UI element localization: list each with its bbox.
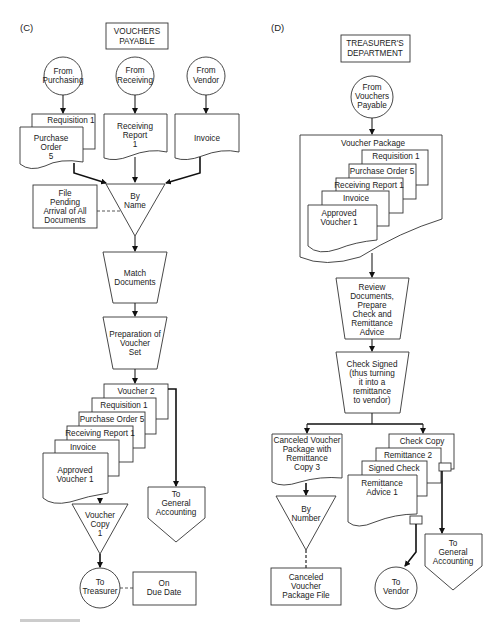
preparation-voucher-set-process: Preparation of Voucher Set [103,317,167,369]
svg-text:Package File: Package File [282,591,330,600]
svg-text:Pending: Pending [50,198,80,207]
approved-voucher-document: Approved Voucher 1 [43,453,108,503]
svg-text:Preparation of: Preparation of [109,330,161,339]
check-signed-process: Check Signed (thus turning it into a rem… [336,352,409,413]
svg-text:Receiving: Receiving [117,122,153,131]
svg-text:Remittance: Remittance [351,319,393,328]
svg-text:Remittance 2: Remittance 2 [384,451,433,460]
svg-text:Approved: Approved [321,209,356,218]
svg-text:Invoice: Invoice [343,194,369,203]
svg-text:Voucher: Voucher [291,582,321,591]
svg-text:Purchase Order 5: Purchase Order 5 [80,415,145,424]
svg-text:Canceled Voucher: Canceled Voucher [274,436,341,445]
to-general-accounting-offpage: To General Accounting [425,534,482,590]
svg-text:5: 5 [49,152,54,161]
svg-text:From: From [196,66,215,75]
svg-text:To: To [449,539,458,548]
svg-text:Accounting: Accounting [433,557,474,566]
svg-text:General: General [438,548,467,557]
svg-text:Voucher 1: Voucher 1 [57,475,94,484]
svg-text:Documents: Documents [44,216,85,225]
vouchers-payable-header: VOUCHERS PAYABLE [106,23,168,49]
svg-text:Copy: Copy [90,520,110,529]
svg-text:Arrival of All: Arrival of All [43,207,86,216]
review-documents-process: Review Documents, Prepare Check and Remi… [336,278,409,339]
match-documents-process: Match Documents [103,252,167,303]
svg-text:Copy 3: Copy 3 [294,463,320,472]
to-vendor-connector: To Vendor [375,567,417,609]
svg-text:Voucher 1: Voucher 1 [321,218,358,227]
svg-text:Vendor: Vendor [193,76,219,85]
check-set-stack: Check Copy Remittance 2 Signed Check Rem… [348,434,454,526]
canceled-voucher-package-file: Canceled Voucher Package File [271,568,341,605]
svg-text:Check Signed: Check Signed [347,360,398,369]
voucher-copy-file: Voucher Copy 1 [72,504,128,554]
svg-text:Check and: Check and [352,310,392,319]
svg-text:1: 1 [98,529,103,538]
file-pending-note: File Pending Arrival of All Documents [33,185,97,228]
svg-text:Advice: Advice [360,328,385,337]
by-number-file: By Number [276,496,336,550]
svg-text:Purchase Order 5: Purchase Order 5 [350,167,415,176]
svg-text:1: 1 [133,140,138,149]
svg-text:TREASURER'S: TREASURER'S [346,39,404,48]
svg-text:Accounting: Accounting [156,508,197,517]
canceled-voucher-package-document: Canceled Voucher Package with Remittance… [272,434,342,485]
svg-text:By: By [130,192,140,201]
svg-text:Canceled: Canceled [289,573,324,582]
svg-text:Receiving Report 1: Receiving Report 1 [334,181,404,190]
svg-text:Name: Name [124,201,146,210]
flowchart-canvas: (C) VOUCHERS PAYABLE From Purchasing Fro… [0,0,500,624]
svg-text:Purchasing: Purchasing [43,76,84,85]
svg-text:Remittance: Remittance [361,479,403,488]
svg-text:Receiving Report 1: Receiving Report 1 [65,429,135,438]
svg-text:Documents,: Documents, [350,292,394,301]
svg-text:Requisition 1: Requisition 1 [372,152,420,161]
svg-text:Advice 1: Advice 1 [366,488,398,497]
svg-text:File: File [58,189,72,198]
svg-text:Treasurer: Treasurer [82,587,117,596]
svg-text:VOUCHERS: VOUCHERS [114,27,161,36]
svg-text:Prepare: Prepare [357,301,387,310]
remittance-advice-document: Remittance Advice 1 [348,475,417,526]
svg-text:Documents: Documents [114,278,155,287]
svg-text:Voucher: Voucher [120,339,150,348]
svg-text:Check Copy: Check Copy [400,437,446,446]
svg-text:By: By [301,505,311,514]
svg-text:From: From [362,83,381,92]
purchase-order-document: Purchase Order 5 [20,127,83,169]
svg-text:(thus turning: (thus turning [349,369,395,378]
svg-text:From: From [125,66,144,75]
to-treasurer-connector: To Treasurer [80,568,120,608]
voucher-set-stack: Voucher 2 Requisition 1 Purchase Order 5… [43,384,168,503]
voucher-package-document: Voucher Package Requisition 1 Purchase O… [300,135,442,263]
svg-text:it into a: it into a [359,378,386,387]
panel-d: (D) TREASURER'S DEPARTMENT From Vouchers… [271,22,482,609]
panel-c-label: (C) [20,22,33,33]
svg-text:Package with: Package with [283,445,332,454]
svg-text:Invoice: Invoice [194,134,220,143]
svg-text:Voucher 2: Voucher 2 [118,387,155,396]
svg-text:Report: Report [123,131,148,140]
svg-text:Signed Check: Signed Check [369,464,421,473]
panel-c: (C) VOUCHERS PAYABLE From Purchasing Fro… [20,22,239,608]
from-receiving-connector: From Receiving [116,57,154,95]
svg-text:Requisition 1: Requisition 1 [100,401,148,410]
svg-text:Voucher Package: Voucher Package [341,139,406,148]
svg-text:Approved: Approved [57,466,92,475]
by-name-file: By Name [106,184,165,236]
svg-text:On: On [159,579,170,588]
svg-text:Vendor: Vendor [383,587,409,596]
treasurers-department-header: TREASURER'S DEPARTMENT [341,35,410,62]
svg-text:From: From [53,67,72,76]
figure-caption-fragment [20,619,80,622]
svg-text:Payable: Payable [357,101,387,110]
svg-text:To: To [96,578,105,587]
svg-text:Match: Match [124,269,147,278]
from-vendor-connector: From Vendor [187,57,225,95]
svg-text:Set: Set [129,348,142,357]
svg-text:Requisition 1: Requisition 1 [47,116,95,125]
svg-text:Vouchers: Vouchers [355,92,389,101]
svg-text:to vendor): to vendor) [354,396,391,405]
svg-text:Voucher: Voucher [85,511,115,520]
